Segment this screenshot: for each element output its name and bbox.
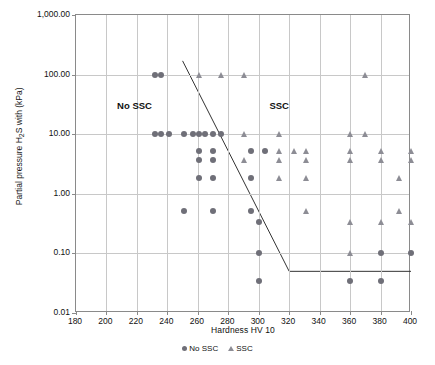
y-tick-label: 0.10: [22, 247, 70, 257]
legend-item: SSC: [228, 344, 252, 353]
data-point-no-ssc: [210, 208, 216, 214]
gridline-horizontal: [76, 194, 409, 195]
circle-marker-icon: [182, 346, 187, 351]
data-point-ssc: [303, 148, 309, 154]
y-tickmark: [72, 194, 76, 195]
x-tickmark: [411, 311, 412, 315]
data-point-no-ssc: [210, 148, 216, 154]
data-point-ssc: [347, 157, 353, 163]
data-point-no-ssc: [210, 131, 216, 137]
x-axis-title: Hardness HV 10: [75, 325, 411, 335]
data-point-ssc: [241, 131, 247, 137]
gridline-vertical: [167, 15, 168, 311]
gridline-vertical: [350, 15, 351, 311]
data-point-no-ssc: [196, 157, 202, 163]
gridline-vertical: [198, 15, 199, 311]
data-point-ssc: [276, 131, 282, 137]
data-point-ssc: [408, 157, 414, 163]
data-point-ssc: [276, 175, 282, 181]
data-point-ssc: [378, 157, 384, 163]
data-point-ssc: [408, 148, 414, 154]
chart-legend: No SSCSSC: [0, 344, 435, 353]
data-point-no-ssc: [196, 175, 202, 181]
plot-area: No SSCSSC: [75, 14, 410, 312]
data-point-ssc: [196, 72, 202, 78]
data-point-no-ssc: [256, 278, 262, 284]
data-point-no-ssc: [166, 131, 172, 137]
legend-label: SSC: [236, 344, 252, 353]
gridline-vertical: [289, 15, 290, 311]
x-tickmark: [381, 311, 382, 315]
data-point-ssc: [347, 219, 353, 225]
x-tickmark: [289, 311, 290, 315]
data-point-ssc: [276, 148, 282, 154]
data-point-no-ssc: [256, 250, 262, 256]
data-point-no-ssc: [158, 72, 164, 78]
x-tickmark: [137, 311, 138, 315]
data-point-no-ssc: [248, 175, 254, 181]
gridline-vertical: [320, 15, 321, 311]
gridline-vertical: [106, 15, 107, 311]
data-point-no-ssc: [181, 208, 187, 214]
y-tick-label: 1.00: [22, 188, 70, 198]
data-point-ssc: [291, 148, 297, 154]
data-point-ssc: [362, 131, 368, 137]
x-tickmark: [350, 311, 351, 315]
data-point-no-ssc: [378, 278, 384, 284]
legend-item: No SSC: [182, 344, 218, 353]
data-point-no-ssc: [152, 72, 158, 78]
data-point-no-ssc: [218, 131, 224, 137]
data-point-ssc: [241, 72, 247, 78]
threshold-lines: [76, 15, 411, 313]
data-point-no-ssc: [181, 131, 187, 137]
x-tickmark: [320, 311, 321, 315]
legend-label: No SSC: [189, 344, 218, 353]
gridline-vertical: [381, 15, 382, 311]
gridline-vertical: [228, 15, 229, 311]
y-tickmark: [72, 134, 76, 135]
gridline-horizontal: [76, 253, 409, 254]
y-axis-tick-labels: 0.010.101.0010.00100.001,000.00: [18, 0, 70, 365]
y-tick-label: 100.00: [22, 69, 70, 79]
data-point-ssc: [241, 157, 247, 163]
data-point-no-ssc: [248, 148, 254, 154]
data-point-no-ssc: [248, 208, 254, 214]
gridline-vertical: [259, 15, 260, 311]
data-point-ssc: [378, 148, 384, 154]
x-tickmark: [167, 311, 168, 315]
data-point-no-ssc: [408, 250, 414, 256]
data-point-no-ssc: [262, 148, 268, 154]
y-tickmark: [72, 15, 76, 16]
data-point-ssc: [362, 72, 368, 78]
data-point-no-ssc: [158, 131, 164, 137]
data-point-ssc: [347, 250, 353, 256]
region-label-ssc: SSC: [269, 100, 289, 111]
data-point-ssc: [276, 157, 282, 163]
data-point-ssc: [303, 208, 309, 214]
y-tickmark: [72, 75, 76, 76]
data-point-no-ssc: [210, 175, 216, 181]
data-point-no-ssc: [347, 278, 353, 284]
gridline-vertical: [137, 15, 138, 311]
data-point-ssc: [396, 208, 402, 214]
data-point-no-ssc: [210, 157, 216, 163]
y-tickmark: [72, 253, 76, 254]
data-point-ssc: [347, 148, 353, 154]
data-point-ssc: [396, 175, 402, 181]
x-tickmark: [259, 311, 260, 315]
y-tickmark: [72, 313, 76, 314]
data-point-no-ssc: [378, 250, 384, 256]
data-point-no-ssc: [196, 131, 202, 137]
region-label-no-ssc: No SSC: [117, 100, 152, 111]
y-tick-label: 1,000.00: [22, 9, 70, 19]
data-point-ssc: [218, 72, 224, 78]
data-point-ssc: [347, 131, 353, 137]
scatter-chart: Partial pressure H2S with (kPa) 0.010.10…: [0, 0, 435, 365]
x-tickmark: [198, 311, 199, 315]
data-point-no-ssc: [202, 131, 208, 137]
data-point-ssc: [303, 175, 309, 181]
data-point-no-ssc: [196, 148, 202, 154]
triangle-marker-icon: [228, 346, 234, 351]
data-point-no-ssc: [152, 131, 158, 137]
data-point-no-ssc: [256, 219, 262, 225]
